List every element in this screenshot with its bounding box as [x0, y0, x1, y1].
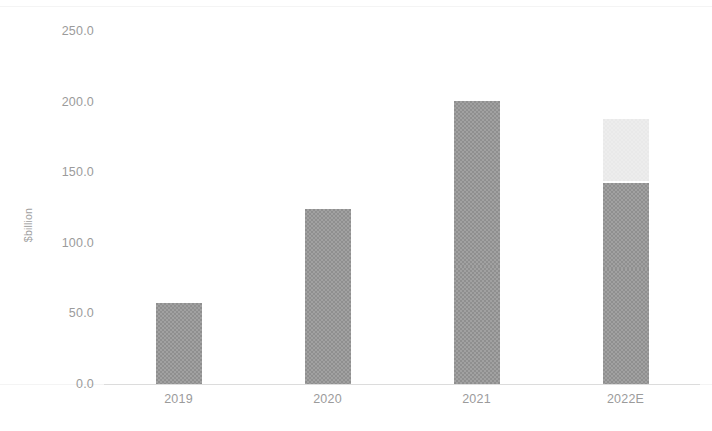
chart-container: 250.0 200.0 150.0 100.0 50.0 0.0 $billio… [0, 0, 712, 431]
bar-2022E [603, 119, 649, 384]
bar-segment [603, 181, 649, 269]
y-tick-label: 0.0 [76, 377, 94, 391]
bar-segment [305, 269, 351, 384]
y-tick-label: 150.0 [62, 165, 94, 179]
x-axis-line [104, 384, 700, 385]
x-axis-tick-labels: 2019202020212022E [104, 392, 700, 414]
bar-2020 [305, 207, 351, 384]
y-tick-label: 100.0 [62, 236, 94, 250]
x-tick-label: 2020 [313, 392, 342, 406]
bar-segment [305, 207, 351, 269]
chart-title-cropped [0, 0, 712, 7]
y-tick-label: 200.0 [62, 95, 94, 109]
bar-2019 [156, 303, 202, 384]
x-tick-label: 2019 [164, 392, 193, 406]
bar-segment [603, 119, 649, 181]
bar-segment [454, 266, 500, 384]
bar-segment [454, 99, 500, 266]
bar-2021 [454, 99, 500, 384]
x-tick-label: 2022E [607, 392, 644, 406]
bar-segment [603, 269, 649, 384]
x-tick-label: 2021 [462, 392, 491, 406]
bars-layer [104, 24, 700, 384]
y-tick-label: 250.0 [62, 24, 94, 38]
y-axis-label: $billion [22, 208, 34, 242]
bar-segment [156, 303, 202, 384]
y-tick-label: 50.0 [69, 306, 94, 320]
